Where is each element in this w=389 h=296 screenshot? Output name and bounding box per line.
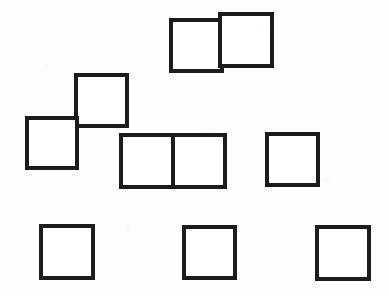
square-top-right bbox=[220, 14, 272, 66]
square-diagonal-upper bbox=[76, 75, 127, 126]
square-domino-right bbox=[173, 135, 225, 187]
square-bottom-right bbox=[317, 227, 369, 279]
squares-diagram bbox=[0, 0, 389, 296]
square-domino-left bbox=[121, 135, 173, 187]
square-bottom-left bbox=[41, 226, 93, 278]
square-middle-right bbox=[267, 134, 318, 185]
square-diagonal-lower bbox=[27, 118, 77, 168]
square-top-left bbox=[171, 20, 222, 71]
figure-canvas bbox=[0, 0, 389, 296]
square-bottom-middle bbox=[184, 227, 235, 278]
